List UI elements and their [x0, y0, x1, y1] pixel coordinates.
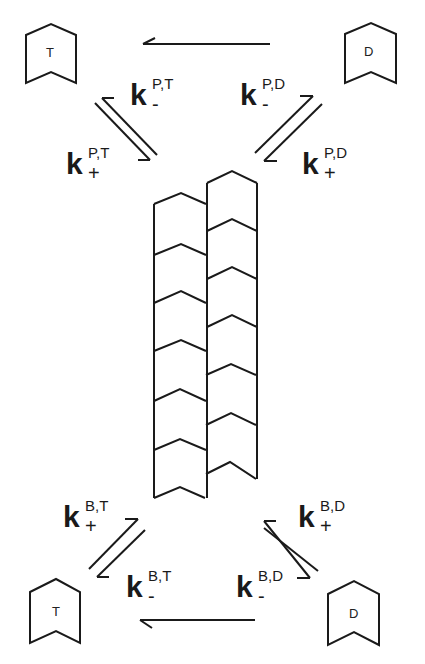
equilibrium-arrows-barbed-t — [89, 519, 145, 577]
subunit-label-bottom-right: D — [349, 606, 358, 621]
rate-k-plus-b-d: k B,D + — [298, 502, 315, 532]
conversion-arrow-top — [143, 38, 270, 44]
rate-k-plus-p-t: k P,T + — [66, 149, 83, 179]
rate-k-plus-b-t: k B,T + — [63, 502, 80, 532]
rate-k-minus-p-t: k P,T - — [130, 80, 147, 110]
subunit-label-top-right: D — [364, 44, 373, 59]
rate-k-minus-p-d: k P,D - — [240, 80, 257, 110]
rate-k-minus-b-t: k B,T - — [126, 572, 143, 602]
filament-left-protofilament — [154, 193, 206, 498]
filament-right-protofilament — [206, 171, 257, 498]
subunit-label-top-left: T — [46, 45, 54, 60]
rate-k-minus-b-d: k B,D - — [236, 572, 253, 602]
subunit-label-bottom-left: T — [52, 604, 60, 619]
conversion-arrow-bottom — [140, 620, 255, 628]
diagram-canvas — [0, 0, 425, 664]
rate-k-plus-p-d: k P,D + — [302, 149, 319, 179]
